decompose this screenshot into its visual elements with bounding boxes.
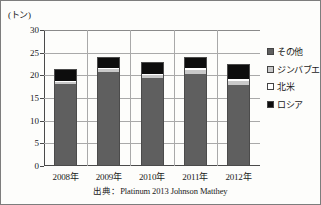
bar-segment-ロシア — [227, 64, 250, 79]
bar-segment-ロシア — [54, 69, 77, 81]
y-tick-mark-5 — [40, 143, 44, 144]
bar-2008年[interactable] — [54, 69, 77, 166]
source-note: 出典：Platinum 2013 Johnson Matthey — [1, 184, 320, 196]
legend-item-ロシア[interactable]: ロシア — [267, 98, 320, 111]
y-tick-label-25: 25 — [30, 48, 39, 57]
y-tick-mark-20 — [40, 75, 44, 76]
x-tick-label-2011年: 2011年 — [182, 170, 208, 183]
legend-swatch-icon — [267, 66, 274, 73]
gridline-x-1 — [87, 30, 88, 166]
bar-segment-その他 — [184, 74, 207, 166]
bar-2010年[interactable] — [141, 62, 164, 166]
bar-segment-ロシア — [97, 57, 120, 68]
legend-label: ロシア — [277, 98, 303, 111]
legend-label: ジンバブエ — [277, 63, 320, 76]
gridline-y-30 — [44, 30, 260, 31]
legend-item-北米[interactable]: 北米 — [267, 80, 320, 93]
y-tick-label-15: 15 — [30, 94, 39, 103]
chart-legend: その他ジンバブエ北米ロシア — [267, 45, 320, 111]
gridline-x-2 — [130, 30, 131, 166]
y-tick-label-0: 0 — [35, 162, 40, 171]
legend-label: 北米 — [277, 80, 294, 93]
y-tick-mark-10 — [40, 121, 44, 122]
bar-2009年[interactable] — [97, 57, 120, 166]
bar-segment-ロシア — [184, 57, 207, 68]
y-tick-label-5: 5 — [35, 139, 40, 148]
y-tick-label-10: 10 — [30, 116, 39, 125]
x-tick-label-2012年: 2012年 — [225, 170, 251, 183]
legend-swatch-icon — [267, 83, 274, 90]
legend-label: その他 — [277, 45, 303, 58]
x-tick-label-2008年: 2008年 — [53, 170, 79, 183]
legend-item-その他[interactable]: その他 — [267, 45, 320, 58]
y-tick-mark-30 — [40, 30, 44, 31]
y-tick-mark-15 — [40, 98, 44, 99]
legend-swatch-icon — [267, 48, 274, 55]
bar-segment-その他 — [141, 78, 164, 166]
gridline-y-25 — [44, 53, 260, 54]
x-tick-label-2010年: 2010年 — [139, 170, 165, 183]
x-tick-label-2009年: 2009年 — [96, 170, 122, 183]
plot-area: 051015202530 2008年2009年2010年2011年2012年 — [44, 30, 260, 166]
gridline-x-3 — [174, 30, 175, 166]
bar-2011年[interactable] — [184, 57, 207, 166]
bar-segment-その他 — [97, 72, 120, 166]
y-tick-mark-0 — [40, 166, 44, 167]
bar-segment-その他 — [54, 84, 77, 166]
legend-swatch-icon — [267, 101, 274, 108]
bar-segment-その他 — [227, 85, 250, 166]
bar-2012年[interactable] — [227, 64, 250, 166]
platinum-supply-stacked-bar-chart: (トン) 051015202530 2008年2009年2010年2011年20… — [0, 0, 321, 205]
y-axis-unit-label: (トン) — [8, 8, 31, 21]
gridline-x-4 — [217, 30, 218, 166]
y-tick-mark-25 — [40, 53, 44, 54]
bar-segment-ロシア — [141, 62, 164, 74]
legend-item-ジンバブエ[interactable]: ジンバブエ — [267, 63, 320, 76]
y-tick-label-30: 30 — [30, 26, 39, 35]
y-tick-label-20: 20 — [30, 71, 39, 80]
